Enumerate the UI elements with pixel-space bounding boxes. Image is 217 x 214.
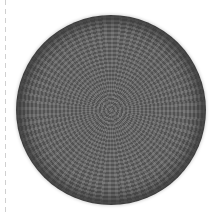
dashed-guide-line bbox=[5, 0, 6, 214]
crocheted-cap: crocheted round cap (kippah) in dark gra… bbox=[16, 15, 206, 205]
